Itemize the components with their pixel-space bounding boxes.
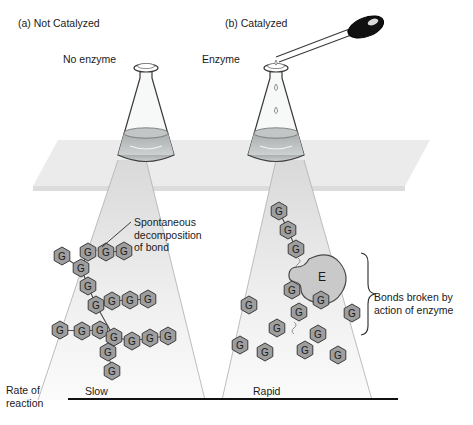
svg-text:G: G bbox=[102, 247, 110, 258]
shelf bbox=[33, 140, 430, 191]
svg-text:G: G bbox=[58, 251, 66, 262]
flask-label-no-enzyme: No enzyme bbox=[63, 53, 116, 66]
rate-of-reaction-label: Rate of reaction bbox=[6, 384, 43, 409]
svg-text:G: G bbox=[284, 225, 292, 236]
dropper-pipette bbox=[276, 12, 387, 62]
svg-text:G: G bbox=[273, 323, 281, 334]
flask-catalyzed bbox=[248, 60, 304, 162]
svg-text:G: G bbox=[96, 325, 104, 336]
svg-text:G: G bbox=[348, 308, 356, 319]
svg-text:G: G bbox=[292, 244, 300, 255]
svg-text:G: G bbox=[275, 206, 283, 217]
annotation-spontaneous-decomposition: Spontaneous decomposition of bond bbox=[134, 216, 202, 254]
panel-title-b: (b) Catalyzed bbox=[225, 17, 287, 30]
rate-label-slow: Slow bbox=[85, 385, 108, 398]
svg-text:G: G bbox=[92, 300, 100, 311]
magnification-cone-left bbox=[38, 160, 205, 400]
svg-text:G: G bbox=[120, 246, 128, 257]
enzyme-catalysis-figure: GGG GGG GGG GGG GGG GGG G E bbox=[0, 0, 473, 425]
svg-text:G: G bbox=[288, 285, 296, 296]
svg-text:G: G bbox=[164, 331, 172, 342]
svg-text:G: G bbox=[301, 345, 309, 356]
svg-text:G: G bbox=[56, 325, 64, 336]
svg-text:G: G bbox=[295, 307, 303, 318]
svg-text:G: G bbox=[77, 263, 85, 274]
panel-title-a: (a) Not Catalyzed bbox=[18, 17, 100, 30]
svg-text:G: G bbox=[110, 332, 118, 343]
svg-text:G: G bbox=[314, 329, 322, 340]
svg-text:G: G bbox=[146, 333, 154, 344]
svg-text:G: G bbox=[84, 247, 92, 258]
svg-text:G: G bbox=[84, 281, 92, 292]
svg-text:G: G bbox=[236, 340, 244, 351]
svg-text:G: G bbox=[104, 347, 112, 358]
svg-text:G: G bbox=[78, 326, 86, 337]
svg-text:G: G bbox=[261, 347, 269, 358]
rate-label-rapid: Rapid bbox=[253, 385, 280, 398]
svg-text:G: G bbox=[317, 295, 325, 306]
flask-label-enzyme: Enzyme bbox=[202, 53, 240, 66]
svg-text:G: G bbox=[126, 295, 134, 306]
svg-text:G: G bbox=[108, 296, 116, 307]
annotation-bonds-broken: Bonds broken by action of enzyme bbox=[374, 291, 453, 316]
flask-not-catalyzed bbox=[118, 63, 174, 161]
enzyme-letter: E bbox=[318, 270, 326, 284]
svg-text:G: G bbox=[334, 350, 342, 361]
svg-text:G: G bbox=[128, 336, 136, 347]
svg-text:G: G bbox=[108, 366, 116, 377]
bonds-broken-brace bbox=[361, 253, 375, 335]
svg-text:G: G bbox=[245, 300, 253, 311]
svg-text:G: G bbox=[144, 294, 152, 305]
